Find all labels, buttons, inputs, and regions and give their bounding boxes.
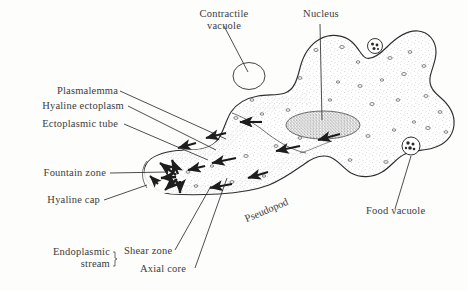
amoeba-diagram-figure: Contractile vacuole Nucleus Plasmalemma … xyxy=(0,0,468,291)
label-contractile-vacuole-line1: Contractile xyxy=(172,8,276,20)
leader-food-vacuole xyxy=(395,156,411,209)
label-contractile-vacuole: Contractile vacuole xyxy=(172,8,276,31)
label-food-vacuole: Food vacuole xyxy=(366,205,425,217)
endoplasmic-stream-bracket xyxy=(113,252,117,266)
leader-contractile-vacuole xyxy=(224,26,248,72)
label-endoplasmic-stream-line2: stream xyxy=(22,258,110,270)
label-hyaline-cap: Hyaline cap xyxy=(12,194,100,206)
leader-shear-zone xyxy=(175,186,211,250)
label-plasmalemma: Plasmalemma xyxy=(8,85,118,97)
label-fountain-zone: Fountain zone xyxy=(4,167,106,179)
label-nucleus: Nucleus xyxy=(284,8,358,20)
leader-hyaline-ectoplasm xyxy=(128,106,216,150)
leader-plasmalemma xyxy=(120,91,226,139)
label-ectoplasmic-tube: Ectoplasmic tube xyxy=(2,118,118,130)
food-vacuole-lower xyxy=(402,137,420,155)
label-hyaline-ectoplasm: Hyaline ectoplasm xyxy=(2,100,124,112)
label-endoplasmic-stream: Endoplasmic stream xyxy=(22,246,110,269)
label-shear-zone: Shear zone xyxy=(124,245,172,257)
nucleus xyxy=(286,111,360,139)
label-contractile-vacuole-line2: vacuole xyxy=(172,20,276,32)
label-endoplasmic-stream-line1: Endoplasmic xyxy=(22,246,110,258)
label-axial-core: Axial core xyxy=(140,263,186,275)
leader-hyaline-cap xyxy=(104,185,147,200)
food-vacuole-upper xyxy=(368,39,383,54)
contractile-vacuole xyxy=(233,63,265,90)
